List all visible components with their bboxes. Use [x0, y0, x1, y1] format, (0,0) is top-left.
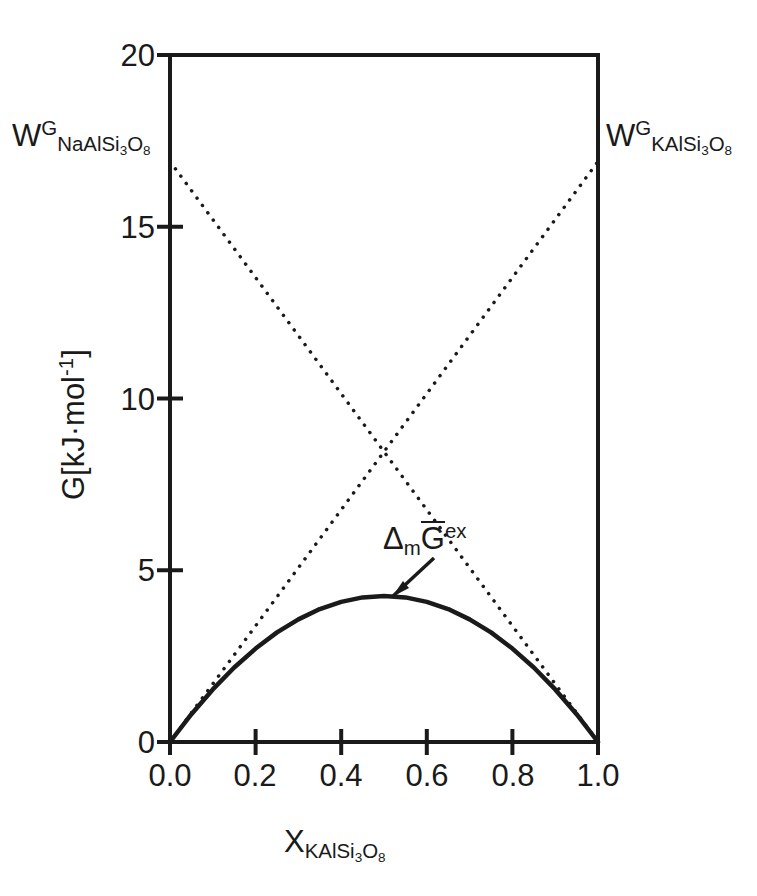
axis-box [170, 55, 598, 742]
y-axis-title-exponent: -1 [54, 358, 77, 376]
y-tick-label-15: 15 [95, 212, 155, 243]
w-left-symbol: W [12, 118, 41, 153]
x-tick-label-0.2: 0.2 [215, 760, 295, 791]
y-axis-title-unit-close: ] [56, 349, 91, 358]
plot-frame [170, 55, 598, 742]
excess-gibbs-energy-figure: 20 15 10 5 0 0.0 0.2 0.4 0.6 0.8 1.0 G[k… [0, 0, 757, 896]
excess-gibbs-annotation: ΔmGex [383, 521, 466, 558]
annotation-arrow [392, 558, 434, 597]
x-axis-title-sub-O: O [362, 839, 378, 862]
w-left-sub-a: NaAlSi [57, 132, 119, 155]
w-right-sub-8: 8 [725, 143, 733, 158]
w-right-sub-O: O [709, 132, 725, 155]
annotation-gbar: G [421, 521, 445, 553]
y-tick-label-0: 0 [95, 727, 155, 758]
excess-gibbs-curve [170, 596, 598, 742]
x-tick-label-0.4: 0.4 [301, 760, 381, 791]
w-label-naalsi3o8: WGNaAlSi3O8 [12, 118, 151, 158]
w-right-sub-3: 3 [701, 143, 709, 158]
w-left-sub-8: 8 [143, 143, 151, 158]
margules-asymptote-lines [170, 161, 598, 742]
w-left-superscript: G [41, 116, 57, 139]
annotation-superscript: ex [445, 519, 467, 542]
y-axis-title: G[kJ·mol-1] [56, 349, 89, 500]
x-axis-title-symbol: X [284, 824, 305, 859]
y-axis-title-G: G [56, 476, 91, 500]
x-tick-label-1.0: 1.0 [558, 760, 638, 791]
w-right-symbol: W [606, 118, 635, 153]
w-label-kalsi3o8: WGKAlSi3O8 [606, 118, 732, 158]
w-right-sub-a: KAlSi [651, 132, 701, 155]
x-axis-title: XKAlSi3O8 [284, 826, 386, 864]
x-axis-title-sub-8: 8 [378, 849, 386, 864]
x-tick-label-0.6: 0.6 [387, 760, 467, 791]
y-tick-label-5: 5 [95, 555, 155, 586]
x-tick-label-0.8: 0.8 [473, 760, 553, 791]
annotation-delta: Δ [383, 521, 404, 556]
x-tick-label-0.0: 0.0 [130, 760, 210, 791]
y-tick-label-20: 20 [95, 40, 155, 71]
x-axis-title-sub: KAlSi [305, 839, 355, 862]
y-axis-title-unit-open: [kJ·mol [56, 376, 91, 476]
annotation-delta-sub: m [404, 536, 421, 559]
w-right-superscript: G [635, 116, 651, 139]
w-left-sub-O: O [127, 132, 143, 155]
y-tick-label-10: 10 [95, 384, 155, 415]
